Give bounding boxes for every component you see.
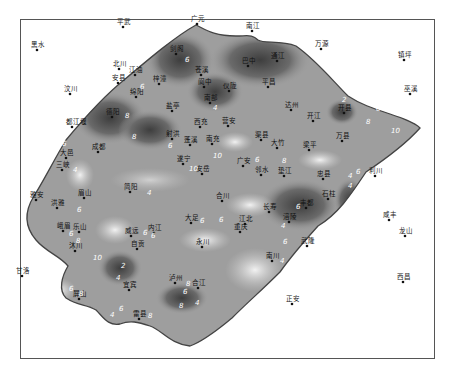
place-marker-dot bbox=[320, 48, 323, 51]
contour-value-label: 2 bbox=[342, 96, 347, 104]
place-label: 营安 bbox=[222, 116, 236, 125]
place-label: 重庆 bbox=[234, 222, 248, 231]
place-label: 都江堰 bbox=[66, 117, 87, 126]
place-marker-dot bbox=[83, 197, 86, 200]
place-marker-dot bbox=[341, 140, 344, 143]
place-marker-dot bbox=[171, 110, 174, 113]
contour-value-label: 4 bbox=[110, 311, 114, 319]
contour-value-label: 4 bbox=[355, 94, 359, 102]
place-marker-dot bbox=[21, 275, 24, 278]
place-marker-dot bbox=[189, 144, 192, 147]
place-marker-dot bbox=[305, 207, 308, 210]
place-marker-dot bbox=[201, 173, 204, 176]
contour-value-label: 6 bbox=[62, 140, 67, 148]
place-marker-dot bbox=[136, 248, 139, 251]
contour-value-label: 4 bbox=[213, 104, 217, 112]
contour-value-label: 6 bbox=[168, 142, 173, 150]
place-label: 开江 bbox=[307, 112, 321, 120]
contour-value-label: 4 bbox=[348, 182, 352, 190]
place-marker-dot bbox=[128, 289, 131, 292]
place-label: 合川 bbox=[216, 191, 230, 200]
place-label: 成都 bbox=[92, 142, 106, 151]
place-marker-dot bbox=[276, 60, 279, 63]
place-marker-dot bbox=[78, 231, 81, 234]
place-label: 涪陵 bbox=[283, 212, 297, 221]
place-label: 利川 bbox=[369, 166, 383, 175]
contour-value-label: 4 bbox=[116, 274, 120, 282]
contour-value-label: 2 bbox=[121, 262, 126, 270]
place-label: 龙山 bbox=[399, 226, 413, 235]
place-label: 南部 bbox=[204, 93, 218, 102]
place-label: 宜宾 bbox=[123, 280, 137, 289]
place-marker-dot bbox=[203, 86, 206, 89]
place-label: 眉山 bbox=[78, 188, 92, 197]
contour-value-label: 6 bbox=[185, 56, 190, 64]
contour-value-label: 6 bbox=[119, 305, 124, 313]
place-marker-dot bbox=[271, 260, 274, 263]
contour-value-label: 8 bbox=[366, 118, 371, 126]
place-label: 大竹 bbox=[271, 138, 285, 147]
contour-value-label: 6 bbox=[143, 229, 148, 237]
place-marker-dot bbox=[221, 200, 224, 203]
contour-value-label: 6 bbox=[140, 83, 145, 91]
place-marker-dot bbox=[276, 147, 279, 150]
place-marker-dot bbox=[247, 65, 250, 68]
place-marker-dot bbox=[56, 207, 59, 210]
place-marker-dot bbox=[306, 245, 309, 248]
place-label: 渠县 bbox=[255, 130, 269, 139]
place-label: 黑水 bbox=[31, 40, 45, 49]
contour-value-label: 8 bbox=[179, 302, 184, 310]
place-label: 甘洛 bbox=[16, 266, 30, 275]
place-marker-dot bbox=[308, 149, 311, 152]
place-marker-dot bbox=[312, 120, 315, 123]
place-label: 威远 bbox=[125, 226, 139, 235]
place-label: 巫溪 bbox=[404, 84, 418, 93]
place-label: 内江 bbox=[148, 223, 162, 232]
place-label: 汶川 bbox=[64, 84, 78, 93]
place-label: 合江 bbox=[192, 278, 206, 287]
contour-value-label: 4 bbox=[73, 166, 77, 174]
place-label: 射洪 bbox=[166, 129, 180, 138]
contour-value-label: 6 bbox=[356, 168, 361, 176]
place-marker-dot bbox=[288, 221, 291, 224]
place-label: 大邑 bbox=[60, 148, 74, 157]
place-marker-dot bbox=[158, 83, 161, 86]
place-marker-dot bbox=[62, 230, 65, 233]
contour-value-label: 8 bbox=[125, 112, 130, 120]
place-label: 江油 bbox=[129, 65, 143, 74]
contour-value-label: 8 bbox=[76, 237, 81, 245]
place-marker-dot bbox=[327, 198, 330, 201]
place-label: 乐山 bbox=[73, 222, 87, 231]
place-marker-dot bbox=[182, 163, 185, 166]
place-label: 雷县 bbox=[133, 310, 147, 318]
place-marker-dot bbox=[61, 169, 64, 172]
place-label: 德阳 bbox=[106, 107, 120, 116]
place-label: 剑阁 bbox=[170, 44, 184, 53]
place-marker-dot bbox=[402, 281, 405, 284]
place-label: 峨眉 bbox=[57, 221, 71, 230]
place-marker-dot bbox=[242, 165, 245, 168]
place-label: 洪雅 bbox=[51, 198, 65, 207]
place-marker-dot bbox=[134, 74, 137, 77]
contour-value-label: 6 bbox=[219, 216, 224, 224]
contour-value-label: 8 bbox=[132, 133, 137, 141]
place-marker-dot bbox=[122, 26, 125, 29]
place-marker-dot bbox=[260, 174, 263, 177]
place-label: 简阳 bbox=[124, 182, 138, 191]
place-marker-dot bbox=[404, 235, 407, 238]
place-marker-dot bbox=[175, 53, 178, 56]
place-label: 开县 bbox=[338, 104, 352, 112]
contour-value-label: 10 bbox=[189, 165, 198, 173]
place-label: 巴中 bbox=[242, 56, 256, 65]
place-marker-dot bbox=[97, 151, 100, 154]
place-label: 武隆 bbox=[301, 236, 315, 245]
place-marker-dot bbox=[190, 222, 193, 225]
place-label: 江北 bbox=[239, 215, 253, 223]
place-label: 邻水 bbox=[255, 165, 269, 174]
place-marker-dot bbox=[403, 59, 406, 62]
place-marker-dot bbox=[388, 219, 391, 222]
contour-value-label: 4 bbox=[147, 189, 151, 197]
contour-value-label: 6 bbox=[283, 238, 288, 246]
place-marker-dot bbox=[69, 93, 72, 96]
place-marker-dot bbox=[409, 93, 412, 96]
